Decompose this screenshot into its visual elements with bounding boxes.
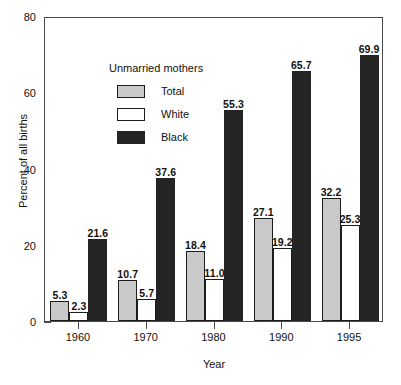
bar-black-1970: [156, 178, 175, 321]
bar-white-1970: [137, 299, 156, 321]
y-tick-label: 0: [2, 316, 36, 328]
bar-white-1995: [341, 225, 360, 321]
y-tick-label: 20: [2, 240, 36, 252]
legend-item-label: Total: [161, 85, 184, 97]
x-tick-mark: [78, 322, 79, 329]
plot-area: 5.32.321.610.75.737.618.411.055.327.119.…: [44, 17, 383, 322]
bar-value-label: 21.6: [84, 227, 111, 239]
x-tick-mark: [349, 322, 350, 329]
x-tick-mark: [281, 322, 282, 329]
legend: Unmarried mothers TotalWhiteBlack: [109, 62, 259, 150]
bar-value-label: 32.2: [318, 186, 345, 198]
y-tick-label: 40: [2, 164, 36, 176]
legend-item-label: White: [161, 108, 189, 120]
bar-white-1990: [273, 248, 292, 321]
x-tick-label: 1960: [48, 331, 108, 343]
x-tick-mark: [214, 322, 215, 329]
x-axis-title: Year: [44, 358, 384, 370]
x-tick-label: 1980: [184, 331, 244, 343]
x-tick-label: 1990: [251, 331, 311, 343]
bar-chart-figure: Percent of all births Year 020406080 196…: [0, 0, 401, 385]
x-tick-label: 1970: [116, 331, 176, 343]
y-tick-label: 80: [2, 11, 36, 23]
bar-black-1995: [360, 55, 379, 321]
legend-swatch-icon: [117, 85, 145, 98]
bar-black-1990: [292, 71, 311, 321]
legend-item-black: Black: [109, 127, 259, 147]
y-tick-mark: [44, 322, 51, 323]
bar-value-label: 27.1: [250, 206, 277, 218]
bar-white-1980: [205, 279, 224, 321]
bar-value-label: 18.4: [182, 239, 209, 251]
legend-rows: TotalWhiteBlack: [109, 81, 259, 147]
bar-value-label: 37.6: [152, 166, 179, 178]
x-tick-mark: [146, 322, 147, 329]
y-tick-label: 60: [2, 87, 36, 99]
legend-item-total: Total: [109, 81, 259, 101]
bar-value-label: 65.7: [288, 59, 315, 71]
bar-value-label: 5.3: [46, 289, 73, 301]
bar-value-label: 69.9: [356, 43, 383, 55]
legend-swatch-icon: [117, 131, 145, 144]
bar-white-1960: [69, 312, 88, 321]
x-tick-label: 1995: [319, 331, 379, 343]
legend-item-white: White: [109, 104, 259, 124]
bar-black-1960: [88, 239, 107, 321]
bar-value-label: 10.7: [114, 268, 141, 280]
legend-item-label: Black: [161, 131, 188, 143]
bar-total-1990: [254, 218, 273, 321]
legend-title: Unmarried mothers: [109, 62, 259, 74]
y-axis-title: Percent of all births: [17, 91, 29, 231]
legend-swatch-icon: [117, 108, 145, 121]
bar-total-1980: [186, 251, 205, 321]
